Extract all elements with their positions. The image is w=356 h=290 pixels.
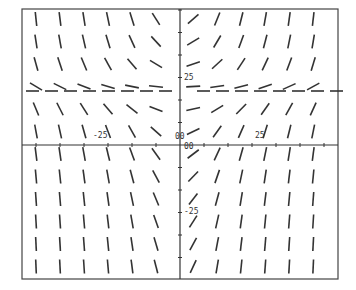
direction-segment (214, 35, 221, 47)
direction-segment (83, 192, 84, 206)
direction-segment (149, 106, 162, 111)
direction-segment (265, 215, 266, 229)
direction-segment (150, 60, 162, 67)
direction-segment (264, 192, 266, 206)
direction-segment (107, 170, 109, 184)
direction-segment (152, 148, 160, 159)
direction-segment (130, 170, 134, 184)
direction-segment (59, 192, 60, 206)
direction-segment (154, 237, 158, 250)
direction-segment (288, 170, 290, 184)
direction-segment (240, 237, 242, 251)
direction-segment (105, 58, 112, 70)
direction-segment (154, 215, 159, 228)
direction-segment (234, 85, 248, 88)
direction-segment (289, 237, 290, 251)
direction-segment (54, 83, 67, 89)
direction-segment (283, 84, 296, 90)
direction-segment (187, 128, 200, 134)
direction-segment (186, 108, 200, 111)
direction-segment (154, 260, 158, 274)
direction-segment (125, 85, 139, 88)
direction-segment (237, 58, 245, 70)
direction-segment (83, 170, 85, 184)
direction-segment (83, 147, 85, 161)
direction-segment (106, 147, 109, 161)
direction-segment (240, 215, 242, 229)
y-tick-label-positive: 25 (184, 74, 194, 82)
direction-segment (212, 59, 222, 68)
direction-segment (211, 105, 223, 112)
direction-segment (106, 35, 110, 48)
direction-segment (35, 147, 37, 161)
x-tick-label-positive: 25 (255, 132, 265, 140)
direction-segment (188, 14, 199, 23)
direction-segment (261, 103, 269, 114)
direction-segment (129, 35, 135, 48)
direction-segment (215, 192, 219, 206)
direction-segment (107, 237, 108, 251)
direction-segment (107, 192, 109, 206)
direction-segment (153, 170, 160, 182)
direction-segment (107, 260, 108, 274)
y-tick-label-negative: -25 (184, 208, 198, 216)
direction-segment (83, 237, 84, 251)
direction-segment (289, 192, 290, 206)
direction-segment (311, 57, 315, 70)
direction-segment (34, 57, 38, 70)
direction-segment (213, 126, 221, 137)
direction-segment (127, 59, 136, 70)
direction-segment (186, 86, 200, 87)
direction-segment (58, 125, 61, 139)
direction-segment (236, 104, 246, 114)
direction-segment (35, 35, 37, 49)
origin-label-top: 00 (175, 133, 185, 141)
direction-segment (57, 103, 63, 115)
direction-segment (131, 260, 133, 274)
direction-segment (265, 237, 266, 251)
direction-segment (313, 237, 314, 251)
direction-segment (216, 237, 219, 251)
direction-segment (313, 170, 314, 184)
direction-segment (307, 83, 319, 90)
direction-segment (239, 147, 243, 160)
direction-segment (215, 170, 220, 183)
direction-segment (131, 215, 133, 229)
direction-segment (240, 260, 241, 274)
direction-segment (60, 260, 61, 274)
direction-segment (240, 170, 243, 184)
direction-segment (131, 237, 133, 251)
direction-segment (214, 148, 220, 161)
direction-segment (313, 260, 314, 274)
direction-segment (107, 215, 109, 229)
direction-segment (82, 35, 85, 49)
origin-label-right: 00 (184, 143, 194, 151)
direction-segment (188, 171, 198, 181)
direction-segment (58, 57, 62, 70)
direction-segment (59, 147, 61, 161)
direction-segment (101, 85, 114, 89)
direction-segment (189, 216, 196, 228)
direction-segment (36, 215, 37, 229)
direction-segment (238, 125, 244, 138)
direction-segment (312, 147, 314, 161)
direction-segment (33, 103, 38, 116)
direction-segment (36, 260, 37, 274)
direction-segment (264, 12, 266, 26)
direction-segment (152, 13, 159, 25)
direction-segment (35, 12, 36, 26)
direction-segment (189, 193, 198, 204)
direction-segment (30, 83, 42, 90)
direction-segment (35, 125, 38, 139)
direction-segment (151, 36, 160, 46)
x-tick-label-negative: -25 (93, 132, 107, 140)
direction-segment (59, 35, 62, 49)
direction-segment (240, 192, 242, 206)
slope-field-chart (0, 0, 356, 290)
direction-segment (60, 215, 61, 229)
direction-segment (239, 35, 244, 48)
direction-segment (210, 85, 224, 87)
direction-segment (259, 84, 272, 89)
direction-segment (60, 237, 61, 251)
direction-segment (264, 170, 266, 184)
